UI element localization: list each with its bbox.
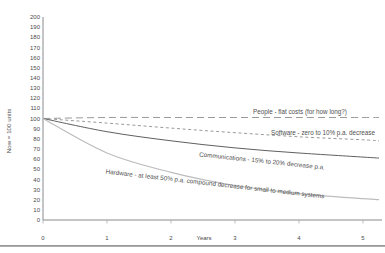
y-tick-label: 30 xyxy=(33,187,40,193)
y-tick-label: 60 xyxy=(33,156,40,162)
y-axis-title: Now = 100 units xyxy=(5,109,12,154)
y-tick-label: 110 xyxy=(30,105,40,111)
y-tick-label: 130 xyxy=(30,85,41,91)
x-tick-label: 5 xyxy=(361,235,365,241)
x-tick-label: 3 xyxy=(233,235,237,241)
bottom-divider xyxy=(0,245,385,247)
y-tick-label: 20 xyxy=(33,197,40,203)
y-tick-label: 70 xyxy=(33,146,40,152)
series-line-people xyxy=(43,117,379,118)
y-tick-label: 80 xyxy=(33,136,40,142)
y-tick-label: 40 xyxy=(33,177,40,183)
cost-trends-chart: 0102030405060708090100110120130140150160… xyxy=(0,0,385,253)
y-tick-label: 140 xyxy=(30,75,41,81)
x-tick-label: 1 xyxy=(105,235,109,241)
y-tick-label: 150 xyxy=(30,65,41,71)
line-chart-svg: 0102030405060708090100110120130140150160… xyxy=(0,0,385,253)
x-tick-label: 0 xyxy=(41,235,45,241)
x-tick-label: 4 xyxy=(297,235,301,241)
axes-layer: 0102030405060708090100110120130140150160… xyxy=(30,14,382,241)
y-tick-label: 10 xyxy=(33,207,40,213)
y-tick-label: 120 xyxy=(30,95,41,101)
y-tick-label: 170 xyxy=(30,45,41,51)
x-tick-label: 2 xyxy=(169,235,173,241)
series-label-people: People - flat costs (for how long?) xyxy=(253,108,347,116)
series-label-hardware: Hardware - at least 50% p.a. compound de… xyxy=(105,168,325,201)
y-tick-label: 200 xyxy=(30,14,41,20)
y-tick-label: 160 xyxy=(30,55,41,61)
y-tick-label: 50 xyxy=(33,166,40,172)
series-label-software: Software - zero to 10% p.a. decrease xyxy=(271,129,375,137)
y-tick-label: 0 xyxy=(37,217,41,223)
y-tick-label: 90 xyxy=(33,126,40,132)
x-axis-title: Years xyxy=(196,235,211,241)
y-tick-label: 100 xyxy=(30,116,41,122)
y-tick-label: 190 xyxy=(30,24,41,30)
y-tick-label: 180 xyxy=(30,34,41,40)
